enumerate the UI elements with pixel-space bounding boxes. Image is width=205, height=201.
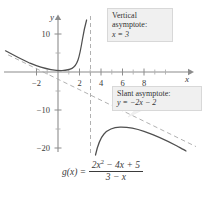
slant-callout-line1: Slant asymptote: [117,89,198,98]
slant-callout-line2: y = −2x − 2 [117,98,198,107]
numerator-rest: − 4x + 5 [104,160,140,170]
vertical-callout-line1: Vertical [112,11,169,20]
equation-function-name: g(x) [62,167,77,177]
equation-equals: = [80,167,85,177]
curve-right-branch [96,127,187,155]
x-axis-letter: x [184,74,189,84]
vertical-callout-line3: x = 3 [112,30,169,39]
y-tick-label-neg20: −20 [37,143,50,153]
y-tick-label-10: 10 [42,29,51,39]
x-tick-label-4: 4 [99,78,104,88]
equation-numerator: 2x2 − 4x + 5 [89,160,143,171]
asymptote-graph-figure: y x −2 2 4 6 8 10 −10 −20 Vertical asymp… [0,0,205,201]
y-axis [55,15,61,153]
y-axis-letter: y [49,12,54,22]
numerator-leading-term: 2x [92,160,101,170]
x-tick-label-neg2: −2 [32,78,41,88]
vertical-callout-line2: asymptote: [112,20,169,29]
equation-fraction: 2x2 − 4x + 5 3 − x [89,160,143,183]
vertical-asymptote-callout: Vertical asymptote: x = 3 [107,8,173,42]
slant-asymptote-callout: Slant asymptote: y = −2x − 2 [112,86,202,111]
equation-denominator: 3 − x [103,172,129,183]
curve-left-branch [6,20,87,71]
x-tick-label-2: 2 [77,78,81,88]
y-tick-label-neg10: −10 [37,105,50,115]
function-equation: g(x) = 2x2 − 4x + 5 3 − x [0,160,205,183]
